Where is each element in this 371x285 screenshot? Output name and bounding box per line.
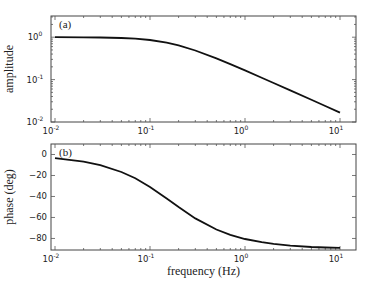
x-tick-label: 10-2	[43, 252, 60, 264]
axes-frame	[51, 144, 356, 250]
y-tick-label: −20	[29, 170, 47, 180]
y-axis-label: amplitude	[2, 45, 16, 93]
phase-curve	[55, 158, 340, 248]
x-tick-label: 10-1	[138, 252, 155, 264]
amplitude-curve	[55, 37, 340, 112]
y-tick-label: −60	[29, 212, 47, 222]
y-tick-label: 10-1	[27, 73, 44, 85]
x-axis-label: frequency (Hz)	[167, 264, 240, 278]
y-tick-label: −80	[29, 233, 47, 243]
panel-label: (b)	[59, 146, 72, 159]
x-tick-label: 100	[234, 252, 249, 264]
x-tick-label: 10-2	[43, 124, 60, 136]
amplitude-panel: 10-210-110010110-210-1100(a)amplitude	[2, 16, 356, 136]
y-tick-label: 10-2	[27, 115, 44, 127]
phase-panel: 10-210-11001010−20−40−60−80(b)phase (deg…	[2, 144, 356, 278]
x-tick-label: 101	[329, 124, 344, 136]
x-tick-label: 10-1	[138, 124, 155, 136]
y-tick-label: 100	[28, 30, 43, 42]
y-tick-label: −40	[29, 191, 47, 201]
panel-label: (a)	[59, 18, 72, 31]
x-tick-label: 101	[329, 252, 344, 264]
y-tick-label: 0	[42, 149, 47, 159]
x-tick-label: 100	[234, 124, 249, 136]
bode-plot-figure: 10-210-110010110-210-1100(a)amplitude 10…	[0, 0, 371, 285]
y-axis-label: phase (deg)	[2, 169, 16, 225]
axes-frame	[51, 16, 356, 122]
